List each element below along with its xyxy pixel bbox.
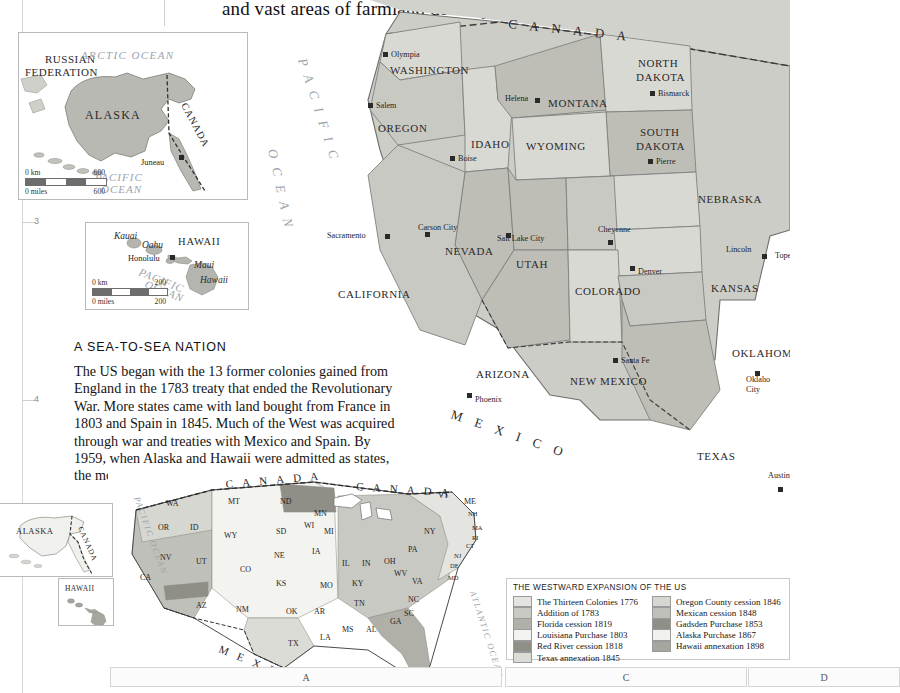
- scale-miles-value: 200: [155, 297, 166, 306]
- label-kauai: Kauai: [113, 231, 138, 241]
- svg-text:Topeka: Topeka: [775, 251, 790, 260]
- margin-number-4: 4: [34, 394, 39, 404]
- legend-item[interactable]: Louisiana Purchase 1803: [513, 630, 644, 641]
- svg-text:Salt Lake City: Salt Lake City: [497, 234, 545, 243]
- scale-miles-label: 0 miles: [25, 187, 47, 196]
- svg-text:MN: MN: [314, 509, 327, 518]
- legend-item[interactable]: Addition of 1783: [513, 607, 644, 618]
- legend-label: Hawaii annexation 1898: [676, 641, 764, 651]
- legend-item[interactable]: Mexican cession 1848: [652, 607, 783, 618]
- svg-text:NEW MEXICO: NEW MEXICO: [570, 375, 647, 387]
- svg-text:DAKOTA: DAKOTA: [636, 71, 685, 83]
- scale-km-value: 600: [94, 168, 105, 177]
- legend-column-left: The Thirteen Colonies 1776 Addition of 1…: [513, 596, 644, 663]
- legend-swatch: [652, 607, 671, 619]
- svg-text:UTAH: UTAH: [516, 258, 548, 270]
- legend-item[interactable]: Red River cession 1818: [513, 641, 644, 652]
- svg-text:SOUTH: SOUTH: [640, 126, 680, 138]
- legend-item[interactable]: Texas annexation 1845: [513, 652, 644, 663]
- scale-km-label: 0 km: [25, 168, 40, 177]
- svg-text:NC: NC: [408, 595, 419, 604]
- legend-label: Addition of 1783: [537, 608, 599, 618]
- alaska-inset: RUSSIAN FEDERATION ARCTIC OCEAN ALASKA C…: [18, 32, 248, 200]
- label-alaska: ALASKA: [85, 108, 141, 122]
- svg-text:ND: ND: [280, 497, 292, 506]
- legend-swatch: [652, 641, 671, 653]
- svg-text:UT: UT: [196, 557, 207, 566]
- label-arctic-ocean: ARCTIC OCEAN: [80, 49, 175, 61]
- svg-text:Denver: Denver: [638, 267, 662, 276]
- svg-text:NORTH: NORTH: [638, 57, 678, 69]
- svg-text:NEBRASKA: NEBRASKA: [698, 193, 762, 205]
- legend-item[interactable]: Hawaii annexation 1898: [652, 641, 783, 652]
- label-ocean: OCEAN: [101, 183, 142, 195]
- svg-text:TEXAS: TEXAS: [697, 450, 735, 462]
- svg-text:MONTANA: MONTANA: [548, 97, 608, 109]
- scale-miles-value: 600: [94, 187, 105, 196]
- svg-text:KS: KS: [276, 579, 286, 588]
- svg-text:DE: DE: [450, 562, 459, 569]
- svg-text:GA: GA: [390, 617, 402, 626]
- alaska-scale-bar: 0 km600 0 miles600: [25, 168, 105, 196]
- legend-label: Red River cession 1818: [537, 641, 623, 651]
- svg-text:WV: WV: [394, 569, 408, 578]
- svg-text:AL: AL: [366, 625, 377, 634]
- hawaii-small-inset: HAWAII: [58, 578, 114, 626]
- legend-swatch: [513, 641, 532, 653]
- svg-text:CT: CT: [466, 542, 474, 549]
- svg-text:IL: IL: [342, 559, 350, 568]
- label-maui: Maui: [193, 260, 214, 270]
- svg-text:WYOMING: WYOMING: [526, 140, 586, 152]
- svg-text:Sacramento: Sacramento: [327, 231, 366, 240]
- grid-ref-d: D: [748, 667, 900, 687]
- svg-text:CO: CO: [240, 565, 251, 574]
- svg-text:DAKOTA: DAKOTA: [636, 140, 685, 152]
- legend-label: Alaska Purchase 1867: [676, 630, 756, 640]
- top-margin-stub: [164, 0, 165, 26]
- legend-item[interactable]: The Thirteen Colonies 1776: [513, 596, 644, 607]
- svg-text:PA: PA: [408, 545, 418, 554]
- label-alaska: ALASKA: [16, 526, 54, 536]
- svg-text:Austin: Austin: [768, 471, 790, 480]
- article-body: The US began with the 13 former colonies…: [74, 363, 404, 485]
- article-block: A SEA-TO-SEA NATION The US began with th…: [74, 340, 404, 485]
- legend-title: THE WESTWARD EXPANSION OF THE US: [513, 583, 783, 592]
- legend-swatch: [513, 652, 532, 664]
- map-legend: THE WESTWARD EXPANSION OF THE US The Thi…: [506, 578, 790, 660]
- label-hawaii-island: Hawaii: [199, 275, 228, 285]
- label-federation: FEDERATION: [25, 66, 98, 78]
- ocean-label-ocean: O C E A N: [265, 148, 297, 231]
- scale-miles-label: 0 miles: [92, 297, 114, 306]
- svg-text:Olympia: Olympia: [391, 50, 420, 59]
- svg-text:RI: RI: [472, 534, 479, 541]
- svg-text:MD: MD: [448, 574, 459, 581]
- svg-text:TX: TX: [288, 639, 299, 648]
- svg-text:OK: OK: [286, 607, 298, 616]
- svg-text:MI: MI: [324, 527, 334, 536]
- svg-text:CA: CA: [140, 573, 151, 582]
- svg-text:OKLAHOMA: OKLAHOMA: [732, 347, 790, 359]
- svg-text:COLORADO: COLORADO: [575, 285, 641, 297]
- grid-ref-c: C: [505, 667, 747, 687]
- legend-item[interactable]: Oregon County cession 1846: [652, 596, 783, 607]
- svg-text:NJ: NJ: [454, 552, 462, 559]
- svg-text:Bismarck: Bismarck: [658, 89, 690, 98]
- svg-text:Salem: Salem: [376, 101, 397, 110]
- legend-item[interactable]: Florida cession 1819: [513, 618, 644, 629]
- grid-ref-a: A: [110, 667, 502, 687]
- svg-text:Cheyenne: Cheyenne: [598, 225, 631, 234]
- legend-item[interactable]: Gadsden Purchase 1853: [652, 618, 783, 629]
- svg-text:City: City: [746, 385, 761, 394]
- svg-text:OH: OH: [384, 557, 396, 566]
- legend-swatch: [513, 596, 532, 608]
- svg-text:Pierre: Pierre: [656, 157, 676, 166]
- svg-text:MO: MO: [320, 581, 333, 590]
- legend-label: Florida cession 1819: [537, 619, 612, 629]
- svg-text:IDAHO: IDAHO: [471, 138, 509, 150]
- svg-text:SC: SC: [404, 609, 414, 618]
- hawaii-inset: Kauai Oahu HAWAII Honolulu Maui Hawaii P…: [85, 222, 249, 310]
- svg-text:SD: SD: [276, 527, 286, 536]
- svg-text:CALIFORNIA: CALIFORNIA: [338, 288, 411, 300]
- legend-item[interactable]: Alaska Purchase 1867: [652, 630, 783, 641]
